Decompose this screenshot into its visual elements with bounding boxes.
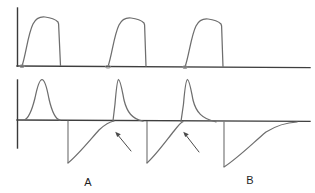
lower-trace-baseline bbox=[17, 120, 310, 121]
lower-trace-spike-3 bbox=[181, 80, 216, 122]
upper-trace-pulse-3 bbox=[185, 19, 223, 67]
annotation-arrow-2 bbox=[183, 132, 199, 152]
upper-trace-pulse-2 bbox=[108, 18, 146, 67]
upper-trace-panel bbox=[17, 8, 310, 68]
panel-label-a: A bbox=[84, 176, 92, 188]
arrow-head-icon bbox=[183, 132, 189, 137]
lower-trace-recovery-1 bbox=[68, 121, 114, 163]
figure-container: A B © Delmar/Cengage Learning bbox=[0, 0, 315, 193]
upper-trace-baseline bbox=[17, 66, 310, 68]
lower-trace-spike-1 bbox=[24, 80, 60, 121]
arrow-head-icon bbox=[115, 132, 121, 137]
upper-trace-pulse-1 bbox=[22, 17, 61, 66]
panel-label-b: B bbox=[246, 174, 254, 186]
lower-trace-recovery-3 bbox=[224, 122, 297, 167]
lower-trace-spike-2 bbox=[113, 80, 143, 122]
lower-trace-recovery-2 bbox=[147, 122, 183, 163]
annotation-arrow-1 bbox=[115, 132, 131, 151]
recording-figure: A B bbox=[0, 0, 315, 193]
lower-trace-panel bbox=[17, 80, 310, 168]
